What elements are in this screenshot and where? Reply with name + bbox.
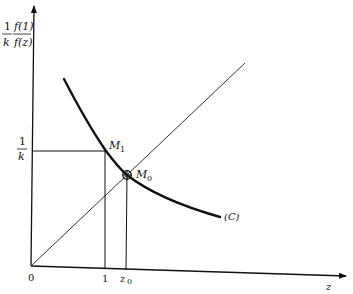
y-axis-label: 1 k f(1) f(z) bbox=[2, 20, 34, 49]
label-curve-c: (C) bbox=[224, 211, 240, 222]
label-m1: M 1 bbox=[108, 139, 125, 154]
diagram: 1 k f(1) f(z) 1 k M 1 M 0 (C) 0 1 z 0 z bbox=[0, 0, 353, 294]
svg-text:z: z bbox=[119, 273, 126, 284]
x-axis bbox=[31, 266, 346, 276]
svg-text:k: k bbox=[3, 36, 10, 49]
x-tick-z0: z 0 bbox=[119, 273, 132, 286]
svg-text:1: 1 bbox=[19, 135, 26, 148]
svg-text:f(1): f(1) bbox=[13, 20, 34, 33]
svg-text:0: 0 bbox=[127, 277, 132, 286]
x-tick-1: 1 bbox=[102, 273, 108, 284]
diagonal-line bbox=[31, 63, 245, 266]
x-axis-label: z bbox=[325, 281, 332, 292]
svg-text:k: k bbox=[18, 150, 25, 163]
svg-text:1: 1 bbox=[120, 145, 125, 154]
y-tick-1-over-k: 1 k bbox=[17, 135, 27, 163]
label-m0: M 0 bbox=[135, 168, 152, 183]
svg-text:1: 1 bbox=[4, 20, 11, 33]
guide-vertical-z0 bbox=[126, 175, 127, 270]
label-origin: 0 bbox=[28, 272, 34, 283]
svg-text:0: 0 bbox=[147, 174, 152, 183]
curve-c bbox=[64, 79, 220, 217]
svg-text:f(z): f(z) bbox=[13, 36, 32, 49]
